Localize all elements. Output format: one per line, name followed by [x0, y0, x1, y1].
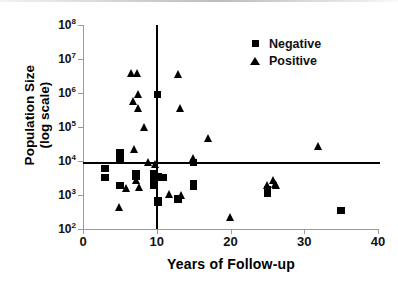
data-point-positive	[134, 90, 142, 98]
data-point-positive	[122, 184, 130, 192]
data-point-positive	[140, 123, 148, 131]
x-tick-label: 20	[211, 234, 251, 249]
data-point-negative	[101, 165, 109, 173]
data-point-positive	[204, 134, 212, 142]
y-tick-label: 103	[52, 188, 76, 202]
data-point-positive	[135, 183, 143, 191]
data-point-negative	[190, 183, 198, 191]
square-marker-icon	[248, 40, 262, 47]
data-point-positive	[115, 203, 123, 211]
data-point-positive	[176, 104, 184, 112]
triangle-marker-icon	[248, 57, 262, 65]
data-point-positive	[226, 213, 234, 221]
data-point-positive	[174, 70, 182, 78]
legend-label-negative: Negative	[269, 37, 321, 51]
data-point-positive	[177, 191, 185, 199]
y-axis-title-line2: (log scale)	[37, 15, 52, 215]
y-axis-title-line1: Population Size	[22, 15, 37, 215]
legend-label-positive: Positive	[269, 54, 317, 68]
y-tick-label: 104	[52, 154, 76, 168]
data-point-positive	[272, 181, 280, 189]
horizontal-reference-line	[83, 162, 380, 164]
data-point-positive	[130, 145, 138, 153]
data-point-negative	[154, 199, 162, 207]
data-point-negative	[337, 207, 345, 215]
data-point-negative	[116, 156, 124, 164]
legend-item-negative: Negative	[248, 35, 358, 52]
x-tick-label: 40	[358, 234, 398, 249]
data-point-positive	[134, 104, 142, 112]
legend-item-positive: Positive	[248, 52, 358, 69]
y-tick-label: 107	[52, 52, 76, 66]
data-point-negative	[264, 189, 272, 197]
data-point-positive	[133, 69, 141, 77]
data-point-negative	[160, 174, 168, 182]
data-point-negative	[154, 91, 162, 99]
x-axis-title: Years of Follow-up	[83, 256, 379, 272]
data-point-positive	[189, 154, 197, 162]
y-tick-label: 108	[52, 18, 76, 32]
x-tick-label: 0	[63, 234, 103, 249]
data-point-positive	[165, 190, 173, 198]
data-point-negative	[150, 181, 158, 189]
top-edge-artifact	[0, 0, 398, 2]
scatter-plot-figure: Population Size (log scale) Years of Fol…	[0, 0, 398, 285]
y-tick-label: 105	[52, 120, 76, 134]
y-tick-label: 106	[52, 86, 76, 100]
legend: Negative Positive	[248, 35, 358, 69]
data-point-positive	[151, 160, 159, 168]
y-axis-title: Population Size (log scale)	[22, 15, 52, 215]
data-point-positive	[314, 142, 322, 150]
data-point-negative	[101, 174, 109, 182]
x-tick-label: 10	[137, 234, 177, 249]
x-tick-label: 30	[284, 234, 324, 249]
